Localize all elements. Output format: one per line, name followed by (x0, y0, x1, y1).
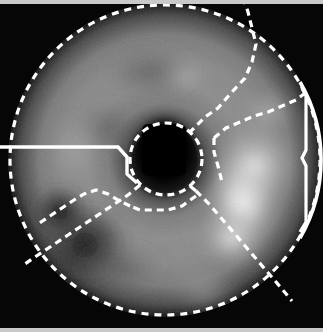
top-frame-strip (0, 0, 323, 4)
polar-map-viewport (0, 0, 323, 332)
bottom-frame-strip (0, 328, 323, 332)
polar-map-canvas (0, 0, 323, 332)
